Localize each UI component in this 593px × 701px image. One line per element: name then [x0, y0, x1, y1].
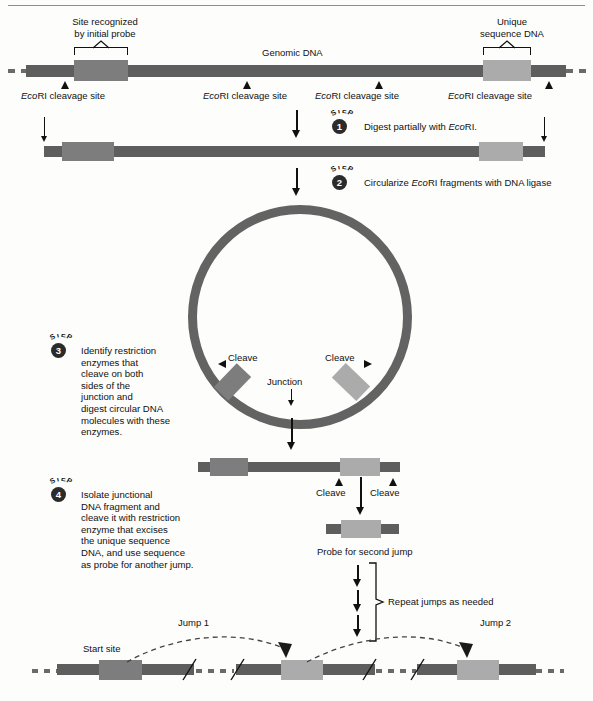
- ecori-cleavage-label-4: EcoRI cleavage site: [448, 90, 532, 102]
- fragment-cleave-caret-right-icon: [389, 478, 397, 486]
- bottom-seg3-b: [499, 664, 536, 675]
- genomic-strand-seg-a: [26, 65, 74, 77]
- svg-text:STEP: STEP: [329, 110, 355, 118]
- fragment-cleave-caret-left-icon: [335, 478, 343, 486]
- junction-label: Junction: [267, 376, 302, 388]
- step-badge-3: STEP 3: [44, 334, 78, 360]
- unique-sequence-chevron-icon: [498, 40, 516, 49]
- bottom-seg1-a: [57, 664, 102, 675]
- step2-text: Circularize EcoRI fragments with DNA lig…: [364, 177, 551, 189]
- start-site-label: Start site: [83, 643, 121, 655]
- junction-fragment-seg-c: [380, 462, 400, 472]
- fragment-cleave-label-right: Cleave: [370, 487, 400, 499]
- svg-text:STEP: STEP: [48, 478, 74, 486]
- ecori-cleavage-label-3: EcoRI cleavage site: [315, 90, 399, 102]
- ecori-caret-icon-4: [545, 81, 553, 89]
- ecori-caret-icon-2: [243, 81, 251, 89]
- ecori-cleavage-label-1: EcoRI cleavage site: [21, 90, 105, 102]
- genomic-probe-site-block: [74, 60, 128, 81]
- fragment-strand-seg-c: [523, 146, 545, 157]
- probe-fragment-seg-b: [381, 524, 399, 534]
- circle-cleave-label-right: Cleave: [325, 352, 355, 364]
- ecori-caret-icon-3: [375, 81, 383, 89]
- bottom-strand-left-dash: [32, 669, 58, 673]
- circular-dna-ring: [188, 205, 412, 429]
- step-number-4: 4: [51, 487, 66, 502]
- jump2-label: Jump 2: [480, 617, 511, 629]
- fragment-strand-seg-b: [114, 146, 479, 157]
- svg-text:STEP: STEP: [48, 334, 74, 342]
- circle-cleave-label-left: Cleave: [228, 352, 258, 364]
- jump1-label: Jump 1: [178, 617, 209, 629]
- step-badge-1: STEP 1: [325, 110, 359, 136]
- repeat-jumps-label: Repeat jumps as needed: [388, 596, 494, 608]
- probe-fragment-unique-block: [341, 520, 381, 538]
- genomic-strand-left-dash: [8, 69, 26, 73]
- fragment-cleave-label-left: Cleave: [316, 487, 346, 499]
- genomic-dna-label: Genomic DNA: [262, 47, 323, 59]
- unique-sequence-dna-label: Unique sequence DNA: [452, 16, 572, 39]
- step4-text: Isolate junctional DNA fragment and clea…: [81, 489, 241, 570]
- junction-fragment-probe-block: [210, 458, 248, 476]
- step1-text: Digest partially with EcoRI.: [364, 121, 477, 133]
- jump2-arc-arrow: [300, 618, 495, 668]
- probe-site-chevron-icon: [92, 40, 110, 49]
- step3-text: Identify restriction enzymes that cleave…: [81, 345, 196, 438]
- circle-cleave-caret-right-icon: [364, 360, 372, 368]
- junction-fragment-unique-block: [340, 458, 380, 476]
- jump1-arc-arrow: [120, 618, 310, 668]
- ecori-caret-icon-1: [61, 81, 69, 89]
- genomic-strand-right-dash: [566, 69, 586, 73]
- step-number-3: 3: [51, 343, 66, 358]
- fragment-probe-site-block: [62, 142, 114, 161]
- step-badge-4: STEP 4: [44, 478, 78, 504]
- step-number-2: 2: [332, 175, 347, 190]
- genomic-strand-seg-b: [128, 65, 483, 77]
- chromosome-jumping-diagram: Site recognized by initial probe Genomic…: [0, 0, 593, 701]
- fragment-unique-sequence-block: [479, 142, 523, 161]
- step-number-1: 1: [332, 119, 347, 134]
- svg-text:STEP: STEP: [329, 166, 355, 174]
- genomic-strand-seg-c: [531, 65, 566, 77]
- ecori-cleavage-label-2: EcoRI cleavage site: [203, 90, 287, 102]
- probe-for-second-jump-caption: Probe for second jump: [317, 546, 413, 558]
- genomic-unique-sequence-block: [483, 60, 531, 81]
- bottom-strand-right-dash: [536, 669, 564, 673]
- step-badge-2: STEP 2: [325, 166, 359, 192]
- top-divider-rule: [8, 5, 585, 6]
- circle-cleave-caret-left-icon: [218, 360, 226, 368]
- site-recognized-label: Site recognized by initial probe: [44, 16, 166, 39]
